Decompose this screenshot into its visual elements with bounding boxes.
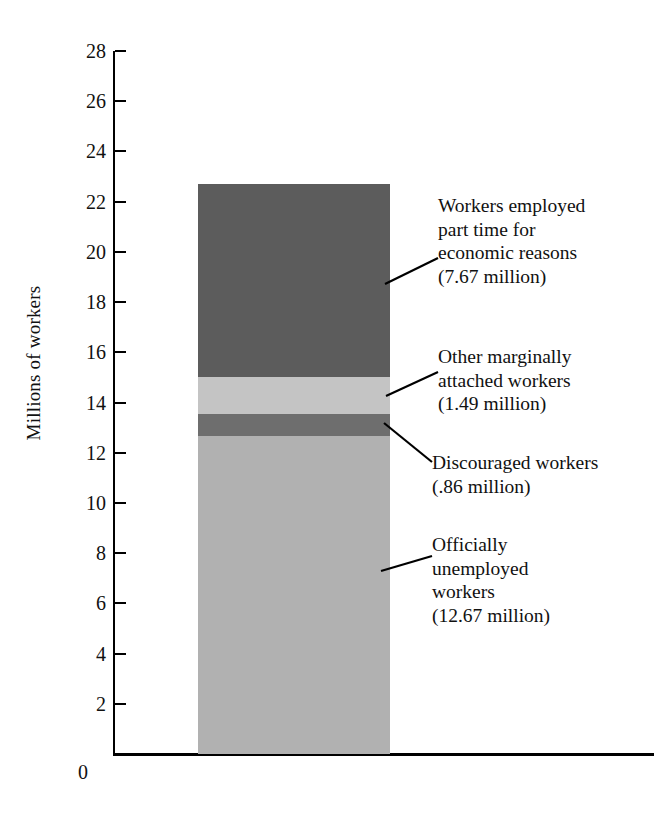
stacked-bar-chart: Millions of workers 28262422201816141210… bbox=[0, 0, 654, 816]
y-tick-mark bbox=[115, 50, 126, 52]
y-tick-label: 6 bbox=[44, 593, 106, 613]
leader-line-part-time bbox=[385, 258, 438, 284]
callout-part-time: Workers employed part time for economic … bbox=[438, 194, 585, 288]
y-tick-mark bbox=[115, 502, 126, 504]
y-tick-label: 18 bbox=[44, 292, 106, 312]
leader-line-marginally-attached bbox=[386, 372, 438, 396]
callout-unemployed: Officially unemployed workers (12.67 mil… bbox=[432, 533, 550, 627]
bar-segment-officially-unemployed-workers bbox=[198, 436, 390, 754]
y-tick-mark bbox=[115, 251, 126, 253]
y-tick-label: 4 bbox=[44, 644, 106, 664]
y-tick-label: 26 bbox=[44, 91, 106, 111]
y-tick-mark bbox=[115, 402, 126, 404]
y-tick-label: 28 bbox=[44, 41, 106, 61]
y-tick-label: 10 bbox=[44, 493, 106, 513]
y-tick-mark bbox=[115, 602, 126, 604]
callout-marginally-attached: Other marginally attached workers (1.49 … bbox=[438, 345, 571, 416]
y-tick-mark bbox=[115, 201, 126, 203]
y-tick-label: 20 bbox=[44, 242, 106, 262]
bar-segment-other-marginally-attached-workers bbox=[198, 377, 390, 414]
y-tick-label: 12 bbox=[44, 443, 106, 463]
y-axis-title: Millions of workers bbox=[23, 233, 45, 493]
y-tick-label: 14 bbox=[44, 393, 106, 413]
y-tick-label: 22 bbox=[44, 192, 106, 212]
y-tick-mark bbox=[115, 150, 126, 152]
y-tick-mark bbox=[115, 351, 126, 353]
y-tick-label: 16 bbox=[44, 342, 106, 362]
bar-segment-discouraged-workers bbox=[198, 414, 390, 436]
y-tick-label: 24 bbox=[44, 141, 106, 161]
callout-discouraged: Discouraged workers (.86 million) bbox=[432, 451, 598, 498]
y-tick-mark bbox=[115, 703, 126, 705]
y-axis-zero-label: 0 bbox=[78, 762, 88, 782]
bar-segment-workers-employed-part-time-for-economic-reasons bbox=[198, 184, 390, 377]
leader-line-discouraged bbox=[384, 423, 432, 462]
y-tick-mark bbox=[115, 552, 126, 554]
y-tick-mark bbox=[115, 301, 126, 303]
y-tick-mark bbox=[115, 653, 126, 655]
y-tick-label: 8 bbox=[44, 543, 106, 563]
y-tick-mark bbox=[115, 100, 126, 102]
y-tick-mark bbox=[115, 452, 126, 454]
y-tick-label: 2 bbox=[44, 694, 106, 714]
